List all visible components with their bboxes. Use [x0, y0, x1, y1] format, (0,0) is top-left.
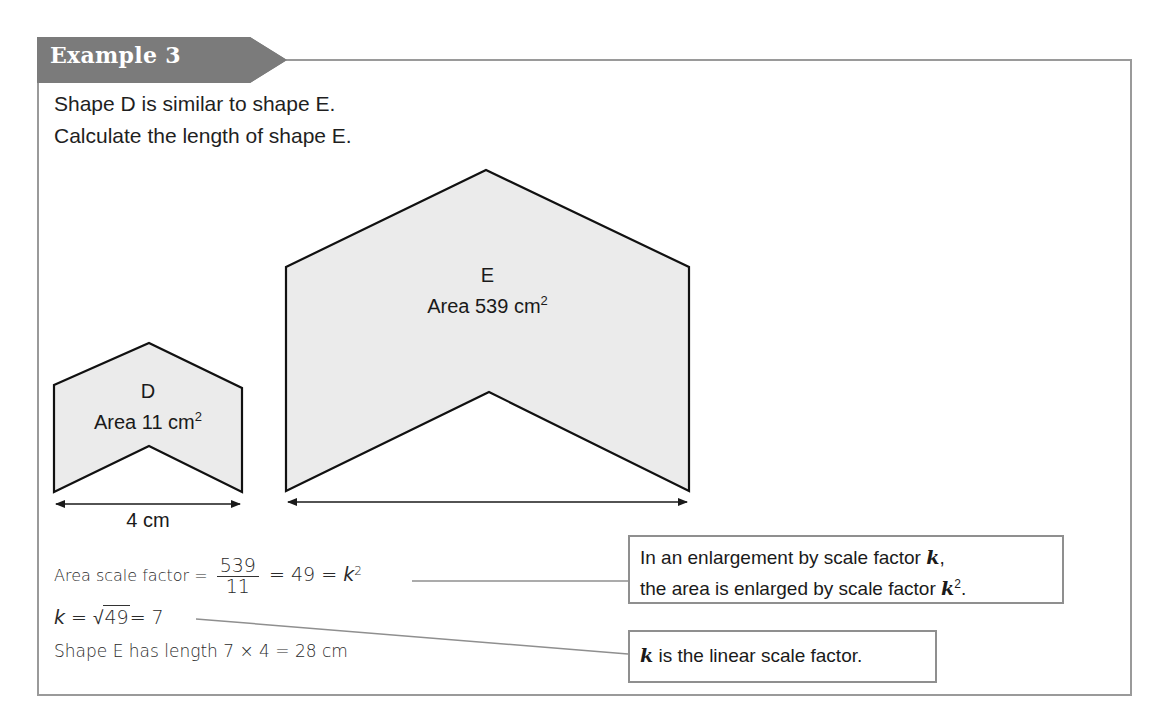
- shape-d-width-label: 4 cm: [54, 509, 242, 532]
- callout-1-line-1: In an enlargement by scale factor k,: [640, 544, 1052, 571]
- fraction-numerator: 539: [217, 556, 259, 577]
- callout-1-exponent: 2: [954, 577, 961, 591]
- solution-line-3: Shape E has length 7 × 4 = 28 cm: [54, 641, 348, 661]
- callout-1-line-1-text: In an enlargement by scale factor: [640, 547, 926, 568]
- solution-line-1: Area scale factor = 53911 = 49 = k2: [54, 556, 362, 597]
- shape-d-area-text: Area 11 cm: [94, 411, 195, 433]
- callout-area-scale-factor: In an enlargement by scale factor k, the…: [628, 535, 1064, 604]
- similar-shapes-diagram: [0, 0, 1159, 712]
- shape-e-area-exponent: 2: [541, 293, 548, 308]
- solution-line-1-exponent: 2: [354, 564, 362, 578]
- solution-line-2-k: k: [54, 606, 65, 628]
- shape-d-area-exponent: 2: [195, 409, 202, 424]
- solution-line-2-equals-sqrt: = √: [65, 606, 103, 628]
- solution-line-2-radicand: 49: [103, 605, 129, 628]
- shape-d-label: D Area 11 cm2: [54, 378, 242, 435]
- callout-1-line-1-end: ,: [939, 547, 944, 568]
- shape-e: [286, 170, 689, 502]
- shape-e-area-text: Area 539 cm: [427, 295, 540, 317]
- callout-2-text: is the linear scale factor.: [653, 645, 862, 666]
- callout-1-line-2-text: the area is enlarged by scale factor: [640, 578, 941, 599]
- callout-1-line-2-k: k: [941, 577, 954, 599]
- shape-e-label: E Area 539 cm2: [286, 262, 689, 319]
- shape-e-name: E: [286, 262, 689, 288]
- callout-1-line-2-end: .: [961, 578, 966, 599]
- solution-line-1-suffix: = 49 =: [263, 563, 343, 585]
- callout-linear-scale-factor: k is the linear scale factor.: [628, 630, 937, 683]
- shape-d-area: Area 11 cm2: [54, 404, 242, 435]
- callout-2-k: k: [640, 644, 653, 666]
- solution-line-1-k: k: [343, 563, 354, 585]
- shape-d-name: D: [54, 378, 242, 404]
- solution-line-2: k = √49= 7: [54, 606, 164, 629]
- callout-1-k: k: [926, 546, 939, 568]
- solution-line-1-prefix: Area scale factor =: [54, 566, 213, 585]
- solution-line-2-result: = 7: [130, 606, 164, 628]
- shape-e-area: Area 539 cm2: [286, 288, 689, 319]
- fraction-539-over-11: 53911: [217, 556, 259, 597]
- fraction-denominator: 11: [217, 577, 259, 597]
- callout-1-line-2: the area is enlarged by scale factor k2.: [640, 571, 1052, 602]
